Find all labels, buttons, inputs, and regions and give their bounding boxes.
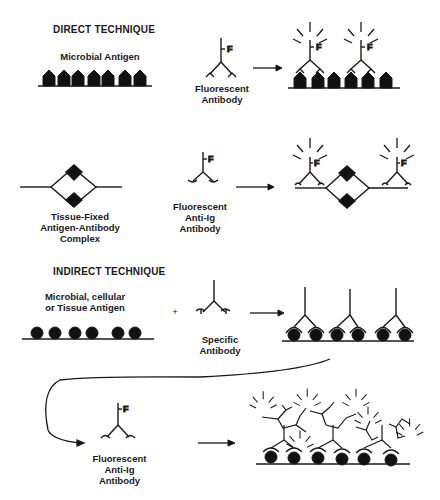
curved-connector-arrow xyxy=(46,359,330,446)
microbial-antigen-row xyxy=(38,70,152,86)
reaction-arrow-2 xyxy=(236,184,274,190)
specific-antibody-icon xyxy=(196,280,230,314)
svg-text:F: F xyxy=(123,404,129,414)
indirect-final-result xyxy=(250,389,424,466)
tissue-fixed-complex xyxy=(20,165,122,207)
svg-text:F: F xyxy=(208,154,214,164)
tissue-antigen-row xyxy=(22,327,154,339)
immunofluorescence-diagram: F F F F xyxy=(0,0,440,500)
svg-text:F: F xyxy=(314,158,320,168)
fluor-tag: F xyxy=(227,44,233,54)
direct-result-1: F F xyxy=(288,22,400,88)
svg-text:F: F xyxy=(367,42,373,52)
direct-result-2 xyxy=(295,157,411,208)
svg-text:F: F xyxy=(401,158,407,168)
fluorescent-anti-ig-icon-2 xyxy=(101,403,135,438)
reaction-arrow-4 xyxy=(198,440,235,446)
indirect-intermediate xyxy=(282,287,414,341)
reaction-arrow xyxy=(253,65,282,71)
svg-text:F: F xyxy=(316,42,322,52)
reaction-arrow-3 xyxy=(250,310,284,316)
fluorescent-anti-ig-icon-1 xyxy=(188,152,218,182)
